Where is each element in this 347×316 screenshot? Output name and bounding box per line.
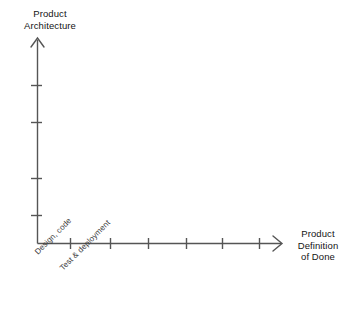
x-axis-title: Product Definition of Done bbox=[291, 228, 345, 263]
axis-diagram: Product Architecture Product Definition … bbox=[0, 0, 347, 316]
axes-drawing bbox=[0, 0, 347, 316]
y-axis-title: Product Architecture bbox=[18, 8, 82, 31]
